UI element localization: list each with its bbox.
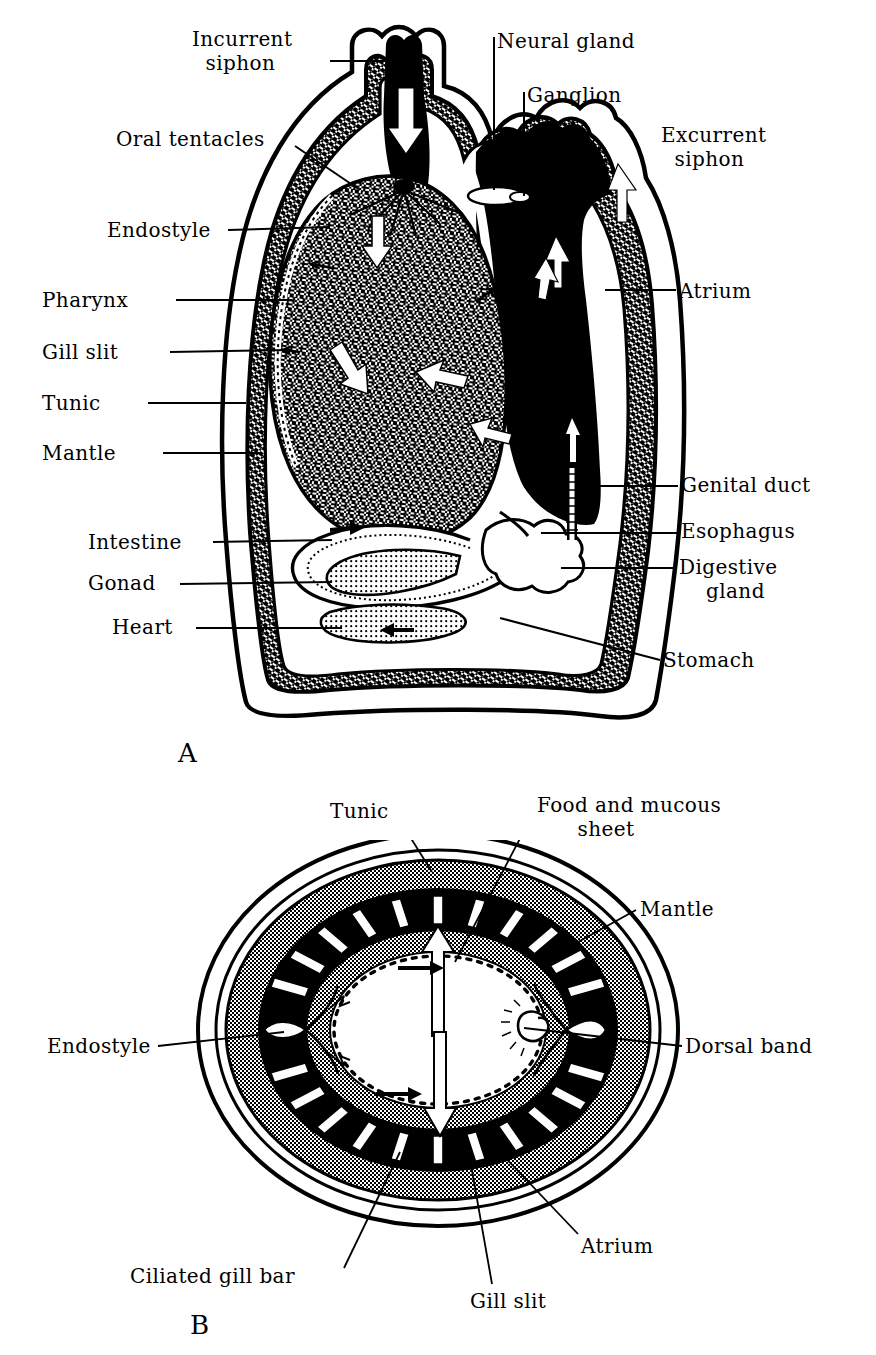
label-gonad: Gonad [88,572,156,596]
label-heart: Heart [112,616,173,640]
label-tunic-b: Tunic [330,800,389,824]
label-tunic-a: Tunic [42,392,101,416]
label-excurrent-siphon: Excurrent siphon [661,124,766,171]
label-endostyle-b: Endostyle [47,1035,151,1059]
label-food-and-mucous-sheet: Food and mucous sheet [537,794,721,841]
label-atrium-b: Atrium [581,1235,653,1259]
label-mantle-a: Mantle [42,442,116,466]
label-pharynx: Pharynx [42,289,128,313]
label-ciliated-gill-bar: Ciliated gill bar [130,1265,295,1289]
label-genital-duct: Genital duct [681,474,811,498]
genital-duct-tube [566,468,578,540]
figure-page: Incurrent siphon Neural gland Ganglion E… [0,0,876,1355]
label-gill-slit-b: Gill slit [470,1290,546,1314]
label-oral-tentacles: Oral tentacles [116,128,265,152]
gill-bar [433,896,443,924]
label-neural-gland: Neural gland [497,30,635,54]
label-stomach: Stomach [663,649,755,673]
pharynx-basket [270,176,507,544]
label-atrium-a: Atrium [679,280,751,304]
label-gill-slit-a: Gill slit [42,341,118,365]
label-esophagus: Esophagus [681,520,795,544]
label-intestine: Intestine [88,531,182,555]
gill-bar [433,1136,443,1164]
panel-b-illustration [0,840,876,1310]
panel-a-illustration [0,0,876,760]
label-ganglion: Ganglion [527,84,622,108]
label-dorsal-band: Dorsal band [685,1035,812,1059]
label-endostyle-a: Endostyle [107,219,211,243]
panel-letter-a: A [178,738,197,768]
label-mantle-b: Mantle [640,898,714,922]
label-incurrent-siphon: Incurrent siphon [192,28,292,75]
label-digestive-gland: Digestive gland [679,556,778,603]
panel-letter-b: B [190,1310,209,1340]
